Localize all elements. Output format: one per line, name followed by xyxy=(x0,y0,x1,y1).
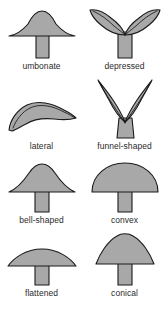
figure-label: convex xyxy=(111,215,138,226)
mushroom-umbonate-icon xyxy=(4,4,80,60)
figure-label: lateral xyxy=(30,141,54,152)
figure-row: lateral funnel-shaped xyxy=(0,72,166,152)
figure-label: conical xyxy=(111,288,138,299)
figure-row: flattened conical xyxy=(0,226,166,299)
mushroom-cap-shapes-plate: umbonate depressed xyxy=(0,0,166,311)
figure-label: flattened xyxy=(25,288,58,299)
mushroom-bell-shaped-icon xyxy=(4,158,80,214)
figure-lateral: lateral xyxy=(4,84,80,152)
figure-row: umbonate depressed xyxy=(0,0,166,72)
figure-convex: convex xyxy=(87,158,163,226)
mushroom-funnel-shaped-icon xyxy=(87,78,163,140)
figure-funnel-shaped: funnel-shaped xyxy=(87,78,163,152)
figure-label: umbonate xyxy=(22,61,60,72)
mushroom-lateral-icon xyxy=(4,84,80,140)
figure-depressed: depressed xyxy=(87,4,163,72)
mushroom-depressed-icon xyxy=(87,4,163,60)
figure-bell-shaped: bell-shaped xyxy=(4,158,80,226)
figure-umbonate: umbonate xyxy=(4,4,80,72)
figure-label: bell-shaped xyxy=(19,215,64,226)
mushroom-convex-icon xyxy=(87,158,163,214)
figure-label: depressed xyxy=(104,61,144,72)
mushroom-flattened-icon xyxy=(4,237,80,287)
figure-conical: conical xyxy=(87,231,163,299)
figure-row: bell-shaped convex xyxy=(0,152,166,226)
figure-flattened: flattened xyxy=(4,237,80,299)
figure-label: funnel-shaped xyxy=(97,141,152,152)
mushroom-conical-icon xyxy=(87,231,163,287)
